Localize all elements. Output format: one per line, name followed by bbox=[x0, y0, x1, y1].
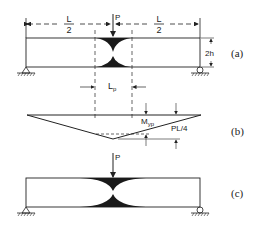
roller-support-a bbox=[191, 67, 209, 76]
depth-dimension: 2h bbox=[201, 38, 214, 67]
pin-support-a bbox=[17, 67, 35, 76]
pin-support-c bbox=[17, 207, 35, 216]
panel-label-b: (b) bbox=[231, 125, 244, 138]
span-right-numerator: L bbox=[156, 14, 161, 24]
depth-label: 2h bbox=[205, 49, 214, 58]
load-arrow-a: P bbox=[113, 13, 120, 36]
panel-label-c: (c) bbox=[231, 187, 244, 200]
load-arrow-c: P bbox=[113, 153, 120, 177]
panel-a: L 2 L 2 P bbox=[17, 13, 244, 118]
plastic-zone-top-c bbox=[80, 178, 146, 191]
plastic-length-dimension: Lp bbox=[80, 81, 146, 92]
span-right-denominator: 2 bbox=[156, 25, 161, 35]
span-left-denominator: 2 bbox=[66, 25, 71, 35]
plastic-hinge-diagram: L 2 L 2 P bbox=[0, 0, 260, 235]
yield-moment-label: Myp bbox=[141, 117, 155, 127]
roller-support-c bbox=[191, 207, 209, 216]
load-label-a: P bbox=[115, 13, 120, 22]
panel-label-a: (a) bbox=[231, 47, 244, 60]
plastic-zone-bottom-a bbox=[96, 56, 131, 67]
plastic-zone-bottom-c bbox=[80, 194, 146, 207]
load-label-c: P bbox=[115, 153, 120, 162]
max-moment-label: PL/4 bbox=[171, 124, 188, 133]
panel-b: Myp PL/4 (b) bbox=[27, 103, 244, 149]
panel-c: P (c) bbox=[17, 153, 244, 216]
plastic-length-label: Lp bbox=[108, 81, 117, 92]
span-left-numerator: L bbox=[66, 14, 71, 24]
plastic-zone-top-a bbox=[96, 38, 131, 52]
